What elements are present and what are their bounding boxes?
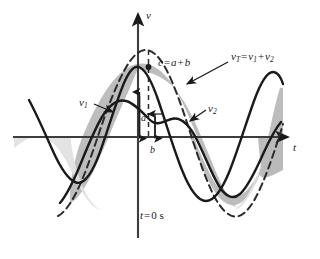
tzero-value: 0 xyxy=(151,209,157,221)
axis-label-v: v xyxy=(146,10,151,21)
curve-label-v2: v2 xyxy=(208,103,217,116)
peak-marker-dot xyxy=(146,64,152,70)
annotation-label-a: a xyxy=(141,113,146,123)
tzero-unit: s xyxy=(160,209,164,221)
c-term2: b xyxy=(185,56,191,68)
curve-v1 xyxy=(29,67,283,201)
leader-v2 xyxy=(190,110,206,121)
leader-vt xyxy=(187,62,228,84)
annotation-label-b: b xyxy=(150,145,155,155)
waveform-superposition-figure: v t v1 v2 vT=v1+v2 c=a+b a b t=0 s xyxy=(0,0,320,259)
vt-plus: + xyxy=(257,50,265,62)
curve-label-vt-equation: vT=v1+v2 xyxy=(231,51,274,64)
curve-label-v2-sub: 2 xyxy=(213,107,217,116)
annotation-label-c-equation: c=a+b xyxy=(158,57,190,68)
c-term1: a xyxy=(171,56,177,68)
c-equals: = xyxy=(163,56,171,68)
origin-time-label: t=0 s xyxy=(140,210,164,221)
curve-label-v1-sub: 1 xyxy=(84,101,88,110)
vt-term2-sub: 2 xyxy=(270,55,274,64)
c-plus: + xyxy=(177,56,185,68)
axes-group xyxy=(13,14,288,238)
curve-label-v1: v1 xyxy=(79,97,88,110)
axis-label-t: t xyxy=(293,142,296,153)
